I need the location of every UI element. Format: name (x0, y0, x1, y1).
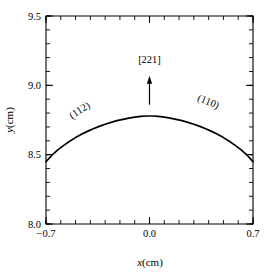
data-curve (46, 116, 253, 162)
x-axis-major-ticks (46, 16, 253, 224)
y-axis-minor-ticks (46, 16, 253, 224)
plot-frame (46, 16, 253, 224)
annotation-left-facet: (112) (67, 99, 93, 122)
y-axis-title: y(cm) (3, 107, 16, 134)
y-axis-title-unit: (cm) (3, 107, 16, 128)
x-axis-title: x(cm) (136, 256, 163, 269)
annotation-direction-label: [221] (138, 54, 161, 65)
x-tick-label: 0.0 (143, 228, 156, 239)
y-tick-label: 9.0 (28, 80, 41, 91)
y-tick-label: 8.5 (28, 149, 41, 160)
plot-svg: 8.08.59.09.5 −0.70.00.7 x(cm) y(cm) (112… (0, 0, 275, 276)
x-axis-title-unit: (cm) (142, 256, 163, 269)
y-axis-major-ticks (46, 16, 253, 224)
x-tick-label: −0.7 (36, 228, 55, 239)
direction-arrow-icon (147, 76, 152, 105)
y-tick-label: 9.5 (28, 11, 41, 22)
y-axis-tick-labels: 8.08.59.09.5 (28, 11, 41, 230)
x-axis-tick-labels: −0.70.00.7 (36, 228, 259, 239)
x-axis-minor-ticks (46, 16, 253, 224)
annotation-right-facet: (110) (196, 92, 222, 112)
x-tick-label: 0.7 (246, 228, 259, 239)
figure-container: 8.08.59.09.5 −0.70.00.7 x(cm) y(cm) (112… (0, 0, 275, 276)
